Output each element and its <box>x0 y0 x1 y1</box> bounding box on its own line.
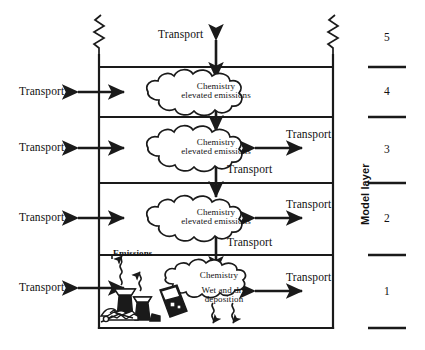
smoke-plume-icon-1 <box>120 256 122 285</box>
deposition-label: Wet and dry deposition <box>188 286 260 305</box>
transport-label-right-l2: Transport <box>286 198 331 210</box>
chemistry-cloud-text-l1: Chemistry <box>164 271 274 280</box>
transport-label-left-l1: Transport <box>19 281 64 293</box>
cloud-line1-l1: Chemistry <box>164 271 274 280</box>
transport-label-top: Transport <box>158 28 203 40</box>
model-layer-number-5: 5 <box>367 31 407 43</box>
diagram-canvas: Transport Transport Transport Transport … <box>0 0 425 350</box>
transport-label-inner-l3-l2: Transport <box>227 163 272 175</box>
cloud-line2-l2: elevated emissions <box>146 217 286 226</box>
smoke-plume-icon-2 <box>139 272 141 291</box>
transport-label-left-l3: Transport <box>19 141 64 153</box>
chemistry-cloud-text-l3: Chemistry elevated emissions <box>146 138 286 157</box>
cloud-line2-l4: elevated emissions <box>146 91 286 100</box>
model-layer-number-1: 1 <box>367 285 407 297</box>
model-layer-number-4: 4 <box>367 85 407 97</box>
cloud-line2-l3: elevated emissions <box>146 147 286 156</box>
model-layer-number-3: 3 <box>367 143 407 155</box>
factory-emission-source-icon <box>101 285 187 322</box>
chemistry-cloud-text-l4: Chemistry elevated emissions <box>146 82 286 101</box>
model-layer-axis-label: Model layer <box>360 163 372 225</box>
transport-label-right-l1: Transport <box>286 271 331 283</box>
deposition-wavy-arrow-2 <box>232 303 234 323</box>
zigzag-continuation-left <box>94 15 104 56</box>
transport-label-inner-l2-l1: Transport <box>227 236 272 248</box>
transport-label-right-l3: Transport <box>286 128 331 140</box>
model-layer-number-2: 2 <box>367 212 407 224</box>
transport-label-left-l2: Transport <box>19 211 64 223</box>
emissions-label: Emissions <box>113 249 152 258</box>
zigzag-continuation-right <box>328 15 338 56</box>
chemistry-cloud-text-l2: Chemistry elevated emissions <box>146 208 286 227</box>
transport-label-left-l4: Transport <box>19 85 64 97</box>
deposition-wavy-arrow-1 <box>212 303 214 323</box>
deposition-line2: deposition <box>188 295 260 304</box>
